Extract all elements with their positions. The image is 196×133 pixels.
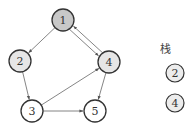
edge-3-to-4 bbox=[41, 68, 99, 105]
stack-item-4: 4 bbox=[166, 94, 184, 112]
graph-node-2: 2 bbox=[9, 50, 31, 72]
edge-2-to-3 bbox=[23, 72, 30, 100]
graph-node-1: 1 bbox=[52, 9, 74, 31]
edge-4-to-5 bbox=[98, 73, 106, 100]
node-label: 2 bbox=[17, 55, 24, 68]
stack-label: 4 bbox=[172, 97, 179, 110]
edges bbox=[23, 26, 106, 111]
graph-node-5: 5 bbox=[84, 100, 106, 122]
node-label: 3 bbox=[29, 105, 36, 118]
stack-nodes: 24 bbox=[166, 64, 184, 112]
stack-item-2: 2 bbox=[166, 64, 184, 82]
stack-label: 2 bbox=[172, 67, 179, 80]
graph-diagram: 12345 24 bbox=[0, 0, 196, 133]
node-label: 4 bbox=[106, 56, 113, 69]
node-label: 1 bbox=[60, 14, 67, 27]
nodes: 12345 bbox=[9, 9, 120, 122]
graph-node-3: 3 bbox=[21, 100, 43, 122]
edge-4-to-1 bbox=[74, 26, 103, 52]
edge-1-to-2 bbox=[29, 28, 55, 53]
node-label: 5 bbox=[92, 105, 99, 118]
edge-1-to-4 bbox=[69, 29, 98, 55]
stack-title: 栈 bbox=[160, 40, 171, 56]
graph-node-4: 4 bbox=[98, 51, 120, 73]
